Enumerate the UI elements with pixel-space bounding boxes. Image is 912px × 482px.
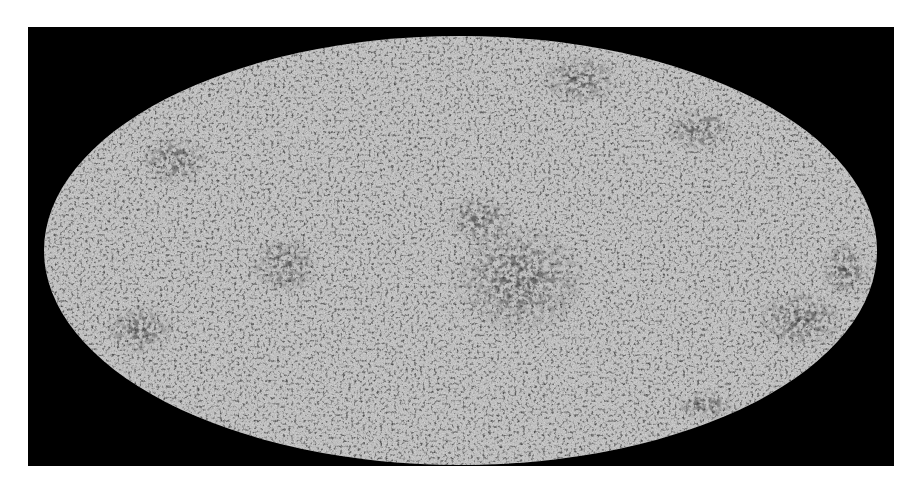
map-surface: [0, 0, 912, 482]
dark-region-left-mid: [250, 235, 320, 295]
dark-region-right-lower: [755, 290, 845, 350]
sky-map: [0, 0, 912, 482]
dark-region-right-edge: [820, 240, 870, 300]
dark-region-bottom-right: [675, 390, 735, 420]
dark-region-left-lower: [105, 305, 175, 355]
dark-region-upper-right: [540, 55, 620, 105]
dark-region-center-upper: [445, 195, 515, 245]
dark-region-upper-right-2: [665, 108, 735, 152]
dark-region-upper-left: [140, 135, 210, 185]
